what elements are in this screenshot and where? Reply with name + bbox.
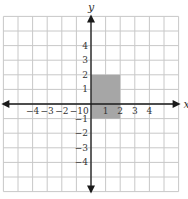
y-tick-label: −3: [75, 143, 89, 153]
y-tick-label: 3: [82, 55, 88, 65]
y-tick-label: −4: [75, 157, 89, 167]
x-tick-label: 3: [132, 106, 138, 116]
x-tick-label: 2: [117, 106, 123, 116]
y-tick-label: 2: [82, 70, 88, 80]
x-tick-label: −3: [41, 106, 55, 116]
coordinate-plane: −4−3−2−11234 4321−1−2−3−4 x y 0: [0, 0, 188, 199]
y-tick-label: 1: [82, 84, 88, 94]
x-axis-arrow-left-icon: [1, 100, 9, 108]
x-tick-label: 1: [103, 106, 109, 116]
y-axis-label: y: [87, 1, 95, 14]
y-tick-label: 4: [82, 41, 88, 51]
x-tick-label: 4: [147, 106, 153, 116]
axes: [1, 14, 180, 193]
y-axis-arrow-down-icon: [87, 186, 95, 194]
x-axis-arrow-right-icon: [173, 100, 181, 108]
y-axis-arrow-up-icon: [87, 14, 95, 22]
x-tick-label: −2: [55, 106, 68, 116]
x-axis-label: x: [184, 98, 188, 111]
y-tick-label: −2: [75, 128, 88, 138]
origin-label: 0: [83, 106, 89, 116]
x-tick-labels: −4−3−2−11234: [26, 106, 153, 116]
coordinate-plane-figure: −4−3−2−11234 4321−1−2−3−4 x y 0: [0, 0, 188, 199]
x-tick-label: −4: [26, 106, 40, 116]
